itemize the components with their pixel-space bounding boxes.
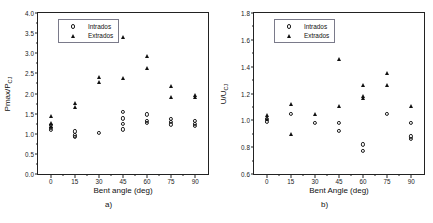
data-point-extrados xyxy=(313,112,317,116)
x-tick-mark-minor xyxy=(86,174,87,176)
open-circle-icon xyxy=(278,24,300,28)
y-tick-mark xyxy=(251,147,255,148)
y-tick-mark-minor xyxy=(252,53,254,54)
x-tick-label: 75 xyxy=(384,178,391,185)
x-tick-mark-minor xyxy=(326,174,327,176)
x-tick-mark xyxy=(363,174,364,178)
data-point-intrados xyxy=(289,112,293,116)
y-tick-label: 0.5 xyxy=(25,150,34,157)
x-tick-mark-minor xyxy=(278,174,279,176)
filled-triangle-icon xyxy=(278,34,300,38)
x-tick-label: 30 xyxy=(311,178,318,185)
data-point-extrados xyxy=(49,114,53,118)
y-tick-mark xyxy=(35,174,39,175)
data-point-intrados xyxy=(97,131,101,135)
x-tick-mark-minor xyxy=(135,174,136,176)
data-point-extrados xyxy=(145,66,149,70)
legend-label-extrados: Extrados xyxy=(88,32,113,39)
y-tick-mark xyxy=(35,73,39,74)
x-tick-label: 60 xyxy=(360,178,367,185)
data-point-extrados xyxy=(97,80,101,84)
data-point-extrados xyxy=(385,71,389,75)
legend-item-extrados-b: Extrados xyxy=(278,31,329,40)
data-point-intrados xyxy=(409,121,413,125)
data-point-extrados xyxy=(121,35,125,39)
x-tick-mark xyxy=(339,174,340,178)
data-point-intrados xyxy=(145,121,149,125)
filled-triangle-icon xyxy=(62,34,84,38)
y-tick-mark-minor xyxy=(252,133,254,134)
x-tick-label: 60 xyxy=(144,178,151,185)
data-point-intrados xyxy=(337,121,341,125)
legend-b: Intrados Extrados xyxy=(274,19,335,43)
plot-frame-b: 0.60.81.01.21.41.61.80153045607590 U/UCJ… xyxy=(253,12,425,175)
data-point-extrados xyxy=(409,104,413,108)
y-axis-title-a: Pmax/PCJ xyxy=(3,76,13,111)
x-tick-label: 30 xyxy=(95,178,102,185)
data-point-extrados xyxy=(169,95,173,99)
data-point-intrados xyxy=(193,124,197,128)
y-tick-mark-minor xyxy=(252,160,254,161)
data-point-extrados xyxy=(49,124,53,128)
y-axis-title-b: U/UCJ xyxy=(219,83,229,104)
legend-a: Intrados Extrados xyxy=(58,19,119,43)
y-tick-mark xyxy=(251,93,255,94)
data-point-intrados xyxy=(313,121,317,125)
y-tick-label: 0.6 xyxy=(241,171,250,178)
y-tick-label: 1.2 xyxy=(241,90,250,97)
panel-a: 0.00.51.01.52.02.53.03.54.00153045607590… xyxy=(0,0,217,223)
y-tick-mark xyxy=(251,39,255,40)
x-tick-mark-minor xyxy=(351,174,352,176)
y-tick-label: 0.0 xyxy=(25,171,34,178)
x-tick-label: 15 xyxy=(71,178,78,185)
y-tick-mark xyxy=(35,33,39,34)
x-tick-mark xyxy=(123,174,124,178)
legend-item-intrados-a: Intrados xyxy=(62,22,113,31)
data-point-extrados xyxy=(97,75,101,79)
data-point-intrados xyxy=(361,149,365,153)
figure-root: 0.00.51.01.52.02.53.03.54.00153045607590… xyxy=(0,0,433,223)
x-tick-label: 90 xyxy=(408,178,415,185)
y-tick-label: 3.5 xyxy=(25,30,34,37)
y-tick-mark xyxy=(35,133,39,134)
y-tick-label: 2.5 xyxy=(25,70,34,77)
x-tick-mark xyxy=(290,174,291,178)
x-tick-mark-minor xyxy=(183,174,184,176)
data-point-extrados xyxy=(193,95,197,99)
x-tick-label: 75 xyxy=(168,178,175,185)
x-tick-label: 90 xyxy=(192,178,199,185)
x-tick-mark xyxy=(171,174,172,178)
y-tick-label: 2.0 xyxy=(25,90,34,97)
legend-item-intrados-b: Intrados xyxy=(278,22,329,31)
x-tick-mark xyxy=(147,174,148,178)
y-tick-mark-minor xyxy=(36,43,38,44)
panel-caption-b: b) xyxy=(216,200,433,209)
x-tick-mark xyxy=(387,174,388,178)
data-point-extrados xyxy=(265,117,269,121)
legend-label-intrados: Intrados xyxy=(304,23,327,30)
y-tick-label: 3.0 xyxy=(25,50,34,57)
x-tick-label: 0 xyxy=(49,178,53,185)
data-point-extrados xyxy=(289,102,293,106)
data-point-intrados xyxy=(409,137,413,141)
data-point-extrados xyxy=(289,132,293,136)
data-point-intrados xyxy=(169,122,173,126)
y-tick-mark-minor xyxy=(36,63,38,64)
y-tick-label: 1.0 xyxy=(241,117,250,124)
x-axis-title-b: Bent Angle (deg) xyxy=(254,186,424,195)
y-tick-mark xyxy=(35,53,39,54)
x-tick-label: 45 xyxy=(119,178,126,185)
data-point-extrados xyxy=(73,105,77,109)
y-tick-mark-minor xyxy=(36,83,38,84)
y-tick-label: 1.4 xyxy=(241,63,250,70)
y-tick-label: 1.0 xyxy=(25,130,34,137)
y-tick-label: 1.5 xyxy=(25,110,34,117)
data-point-intrados xyxy=(121,127,125,131)
x-tick-mark-minor xyxy=(110,174,111,176)
y-tick-mark xyxy=(251,13,255,14)
legend-item-extrados-a: Extrados xyxy=(62,31,113,40)
y-tick-mark-minor xyxy=(36,103,38,104)
x-tick-mark xyxy=(74,174,75,178)
y-tick-label: 1.6 xyxy=(241,36,250,43)
data-point-extrados xyxy=(337,57,341,61)
